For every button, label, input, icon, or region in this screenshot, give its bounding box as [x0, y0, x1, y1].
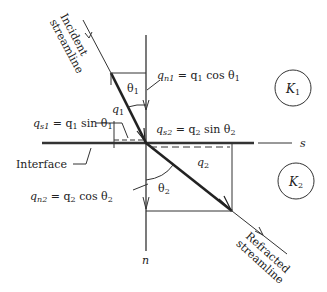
qn2-equation: qn2 = q2 cos θ2 [30, 190, 113, 204]
theta1-arc [128, 105, 146, 107]
qs2-equation: qs2 = q2 sin θ2 [156, 123, 236, 137]
theta2-label: θ2 [158, 182, 170, 196]
interface-label: Interface [16, 158, 67, 171]
q1-label: q1 [112, 103, 124, 117]
k2-label: K2 [288, 175, 303, 190]
s-axis-label: s [300, 137, 306, 150]
interface-leader [73, 148, 91, 164]
qn1-equation: qn1 = q1 cos θ1 [157, 69, 240, 83]
theta2-arc [146, 165, 173, 180]
incident-streamline-label: Incident streamline [47, 11, 97, 75]
n-axis-label: n [142, 254, 149, 267]
q2-label: q2 [197, 156, 209, 170]
incident-arrowhead-icon [85, 32, 92, 38]
k1-label: K1 [285, 82, 300, 97]
qs1-equation: qs1 = q1 sin θ1 [33, 117, 113, 131]
refracted-streamline-label: Refracted streamline [233, 228, 294, 286]
refraction-diagram: Incident streamline Refracted streamline… [0, 0, 327, 292]
theta1-label: θ1 [127, 82, 139, 96]
